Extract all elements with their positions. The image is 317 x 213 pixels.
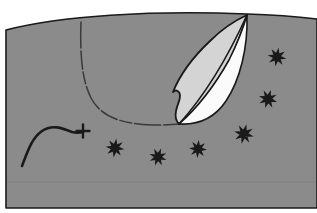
illustration-canvas: Gray rectangular field with a pointed le… — [0, 0, 317, 213]
illustration-svg — [0, 0, 317, 213]
gray-field-shape — [6, 13, 317, 208]
